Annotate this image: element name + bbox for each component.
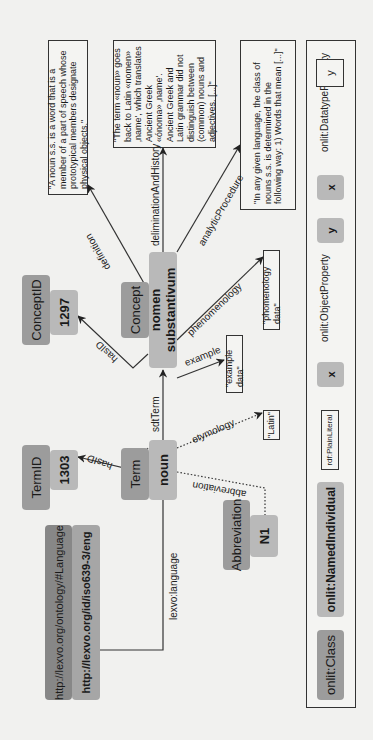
conceptid-value-node: 1297 [50,290,78,335]
definition-literal: "A noun s.s. is a word that is a member … [48,40,88,195]
legend-individual-node: onlit:NamedIndividual [317,482,344,617]
language-individual-node: http://lexvo.org/id/iso639-3/eng [72,525,100,700]
legend-datatype-from-node: x [317,175,344,200]
termid-value-label: 1303 [57,456,72,485]
language-class-node: http://lexvo.org/ontology/#Language [45,525,72,700]
example-text: "example data" [224,341,245,387]
conceptid-class-label: ConceptID [29,279,44,340]
conceptid-class-node: ConceptID [22,275,50,345]
legend-literal-node: rdf:PlainLiteral [321,410,339,470]
language-individual-label: http://lexvo.org/id/iso639-3/eng [80,532,92,694]
edge-label-sdtterm: sdtTerm [150,396,161,432]
legend-literal-label: rdf:PlainLiteral [325,414,336,465]
conceptid-value-label: 1297 [57,298,72,327]
term-class-node: Term [121,448,149,500]
delimination-literal: "The term «noun» goes back to Latin «nom… [113,40,216,148]
termid-class-label: TermID [29,457,44,499]
etymology-literal: "Latin" [263,410,280,440]
legend-object-from-node: x [317,362,344,387]
concept-individual-node: nomen substantivum [149,252,177,368]
delimination-text: "The term «noun» goes back to Latin «nom… [112,46,217,142]
analytic-text: "In any given language, the class of nou… [252,46,284,204]
legend-datatype-to-label: y [325,70,336,76]
termid-value-node: 1303 [50,450,78,490]
term-class-label: Term [128,460,143,489]
concept-class-node: Concept [121,282,149,338]
definition-text: "A noun s.s. is a word that is a member … [47,46,89,189]
legend-class-label: onlit:Class [323,635,338,695]
abbreviation-class-label: Abbreviation [229,499,244,571]
term-individual-label: noun [156,454,171,486]
language-class-label: http://lexvo.org/ontology/#Language [53,525,65,700]
phenomenology-text: "phomenology data" [261,256,282,324]
abbreviation-class-node: Abbreviation [223,500,250,570]
legend-class-node: onlit:Class [317,630,344,700]
edge-label-delimination: deliminationAndHistory [150,144,161,246]
concept-class-label: Concept [128,286,143,334]
legend-object-to-label: y [325,227,337,233]
example-literal: "example data" [226,335,243,393]
term-individual-node: noun [149,440,177,500]
legend-object-property-label: onlit:ObjectProperty [319,254,330,342]
etymology-text: "Latin" [266,412,277,438]
legend-individual-label: onlit:NamedIndividual [324,487,338,612]
legend-datatype-from-label: x [325,184,337,190]
abbreviation-individual-node: N1 [250,515,278,557]
edge-label-language: lexvo:language [168,553,179,620]
concept-individual-label: nomen substantivum [148,252,178,368]
termid-class-node: TermID [22,445,50,510]
abbreviation-individual-label: N1 [257,528,272,545]
legend-object-from-label: x [325,371,337,377]
legend-datatype-to-node: y [316,59,344,87]
edge-definition [88,185,149,292]
phenomenology-literal: "phomenology data" [263,250,280,330]
legend-object-to-node: y [317,218,344,243]
analytic-literal: "In any given language, the class of nou… [240,40,296,210]
ontology-diagram: "A noun s.s. is a word that is a member … [0,0,373,740]
